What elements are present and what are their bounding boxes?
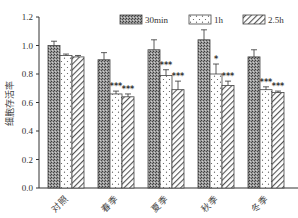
x-tick-label: 秋季 <box>199 194 220 215</box>
bar <box>222 85 234 188</box>
y-tick-label: 0.2 <box>22 155 33 165</box>
legend-swatch <box>120 15 142 24</box>
bar-group-2: ******春季 <box>98 53 135 215</box>
x-tick-label: 冬季 <box>249 194 270 215</box>
significance-marker: * <box>214 55 219 64</box>
bar <box>72 57 84 188</box>
bar <box>172 90 184 188</box>
significance-marker: *** <box>122 85 135 94</box>
bar <box>272 93 284 188</box>
x-tick-label: 对照 <box>49 194 70 215</box>
significance-marker: *** <box>222 72 235 81</box>
y-tick-label: 0.4 <box>22 126 34 136</box>
bar <box>260 90 272 188</box>
y-tick-label: 1.0 <box>22 41 34 51</box>
significance-marker: *** <box>160 61 173 70</box>
bar <box>198 40 210 188</box>
legend-item-1h: 1h <box>189 15 224 25</box>
legend-label: 30min <box>145 15 169 25</box>
legend-item-30min: 30min <box>120 15 169 25</box>
bar <box>148 50 160 188</box>
bar <box>98 60 110 188</box>
legend-item-2.5h: 2.5h <box>243 15 284 25</box>
bar <box>48 46 60 189</box>
y-tick-label: 0.0 <box>22 183 34 193</box>
bar-group-5: ******冬季 <box>248 50 285 214</box>
bar-group-1: 对照 <box>48 41 84 214</box>
bars: 对照******春季******夏季****秋季******冬季 <box>48 30 285 214</box>
legend-label: 2.5h <box>268 15 284 25</box>
y-tick-label: 0.6 <box>22 98 34 108</box>
y-tick-label: 0.8 <box>22 69 34 79</box>
x-tick-label: 夏季 <box>149 194 170 215</box>
y-axis-label: 细胞存活率 <box>4 81 15 126</box>
bar-group-4: ****秋季 <box>198 30 235 214</box>
bar <box>210 74 222 188</box>
y-tick-label: 1.2 <box>22 12 33 22</box>
significance-marker: *** <box>272 82 285 91</box>
legend: 30min1h2.5h <box>120 15 284 25</box>
bar <box>122 97 134 188</box>
significance-marker: *** <box>172 72 185 81</box>
bar <box>160 75 172 188</box>
legend-swatch <box>243 15 265 24</box>
bar-chart: 0.00.20.40.60.81.01.2 对照******春季******夏季… <box>0 0 298 218</box>
x-tick-label: 春季 <box>99 194 120 215</box>
bar <box>248 57 260 188</box>
bar <box>60 55 72 188</box>
legend-swatch <box>189 15 211 24</box>
bar <box>110 94 122 188</box>
bar-group-3: ******夏季 <box>148 40 185 214</box>
legend-label: 1h <box>214 15 224 25</box>
